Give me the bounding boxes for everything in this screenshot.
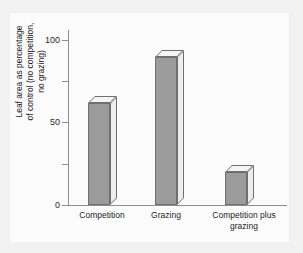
chart-figure: 100 50 0 Leaf area as percentage of cont… (0, 0, 303, 253)
plot-area: 100 50 0 Leaf area as percentage of cont… (0, 0, 303, 253)
category-label-competition: Competition (62, 210, 142, 221)
y-axis-title-line3-text: no grazing) (36, 50, 46, 93)
y-axis-title-line1: Leaf area as percentage (14, 25, 24, 117)
bar-front-face (88, 103, 110, 205)
bar-front-face (225, 172, 247, 205)
y-tick-label-50: 50 (50, 118, 60, 127)
bar-competition-plus-grazing[interactable] (225, 172, 247, 205)
bar-front-face (155, 57, 177, 205)
bar-side-face (177, 50, 184, 205)
y-tick-100 (62, 40, 68, 41)
y-axis-title: Leaf area as percentage of control (no c… (14, 0, 47, 147)
y-axis-title-line2-text: of control (no competition, (25, 23, 35, 121)
y-tick-75 (62, 81, 68, 82)
y-tick-25 (62, 164, 68, 165)
bar-grazing[interactable] (155, 57, 177, 205)
bar-side-face (247, 165, 254, 205)
y-tick-0 (62, 205, 68, 206)
y-tick-50 (62, 122, 68, 123)
x-axis-line (68, 205, 287, 206)
bar-competition[interactable] (88, 103, 110, 205)
y-tick-label-100: 100 (45, 36, 60, 45)
y-axis-line (68, 30, 69, 205)
bar-side-face (110, 96, 117, 205)
y-axis-title-line2: of control (no competition, (25, 0, 36, 147)
category-label-competition-plus-grazing: Competition plus grazing (198, 210, 290, 232)
y-tick-label-0: 0 (55, 201, 60, 210)
category-label-grazing: Grazing (135, 210, 197, 221)
y-axis-title-line3: no grazing) (36, 0, 47, 147)
